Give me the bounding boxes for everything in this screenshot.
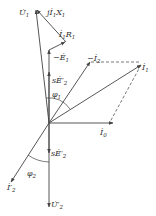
label-phi2: φ2 [27,169,37,179]
label-i2p: İ′2 [6,183,16,193]
label-i1r1: İ1R1 [58,30,75,40]
phasor-i1r1 [49,42,65,50]
phasor-u1 [36,10,49,123]
label-i1: İ1 [141,63,149,73]
dashed-diagonal [110,65,141,122]
label-u2p: U̇′2 [51,200,64,210]
label-minus-i2: −İ2 [87,54,101,64]
label-phi1: φ1 [52,90,61,100]
phasor-diagram: U̇1 jİ1X1 İ1R1 −Ė1 −İ2 İ1 sĖ′2 φ1 İ0 sĖ′… [0,0,156,216]
label-u1: U̇1 [19,8,29,18]
phi2-arc [28,155,49,162]
label-se2-up: sĖ′2 [52,76,68,86]
label-minus-e1: −Ė1 [53,53,69,63]
label-ji1x1: jİ1X1 [45,8,65,18]
label-se2-down: sĖ′2 [51,149,67,159]
label-i0: İ0 [99,128,107,138]
phasor-i1 [49,65,141,123]
